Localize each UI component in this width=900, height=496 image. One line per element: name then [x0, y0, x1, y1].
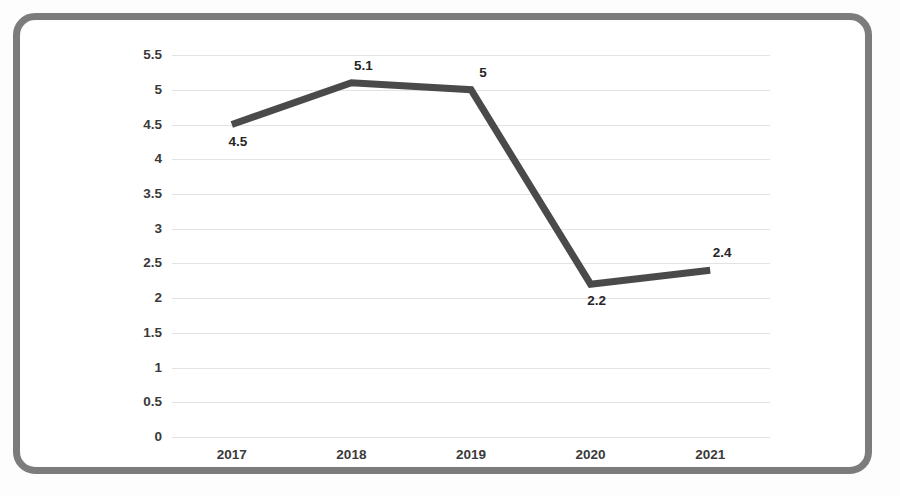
data-point-label: 5 [453, 66, 513, 80]
chart-page: 5.554.543.532.521.510.50 201720182019202… [0, 0, 900, 496]
data-series-line [232, 83, 710, 284]
data-point-label: 2.4 [692, 246, 752, 260]
line-chart: 5.554.543.532.521.510.50 201720182019202… [0, 0, 900, 496]
data-point-label: 2.2 [567, 294, 627, 308]
data-point-label: 5.1 [333, 59, 393, 73]
data-point-label: 4.5 [208, 135, 268, 149]
series-line-group [0, 0, 900, 496]
